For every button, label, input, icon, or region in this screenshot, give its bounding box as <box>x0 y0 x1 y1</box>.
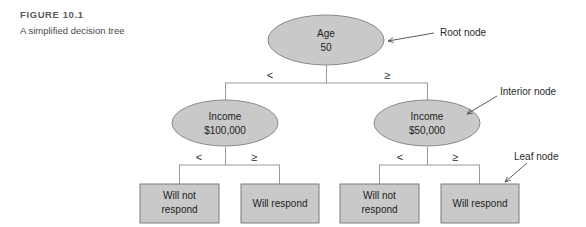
branch-label-root-right: ≥ <box>384 69 390 81</box>
annotation-leaf-node: Leaf node <box>505 151 559 182</box>
connector-right-subtree <box>379 147 480 184</box>
node-root-line2: 50 <box>320 42 332 53</box>
annotation-leaf-node-leader <box>505 163 527 182</box>
branch-label-left-node-right: ≥ <box>251 151 257 163</box>
node-root-line1: Age <box>317 28 335 39</box>
annotation-root-node: Root node <box>388 27 487 41</box>
leaf-node-1-line2: respond <box>161 204 197 215</box>
figure-container: FIGURE 10.1 A simplified decision tree <box>0 0 586 227</box>
connector-root-level <box>225 65 428 101</box>
branch-label-right-node-left: < <box>397 151 403 163</box>
node-root[interactable]: Age 50 <box>268 15 384 65</box>
leaf-node-2[interactable]: Will respond <box>241 184 319 223</box>
annotation-interior-node-label: Interior node <box>500 86 557 97</box>
leaf-node-1-line1: Will not <box>163 190 196 201</box>
leaf-node-3-line2: respond <box>361 204 397 215</box>
node-interior-right-line1: Income <box>411 111 444 122</box>
node-interior-left-line1: Income <box>209 111 242 122</box>
decision-tree-diagram: Age 50 < ≥ Income $100,000 Income $50,00… <box>0 0 586 227</box>
leaf-node-3[interactable]: Will not respond <box>340 184 419 223</box>
node-interior-right[interactable]: Income $50,000 <box>374 100 480 146</box>
annotation-leaf-node-label: Leaf node <box>514 151 559 162</box>
branch-label-right-node-right: ≥ <box>452 151 458 163</box>
node-interior-left-line2: $100,000 <box>204 125 246 136</box>
branch-label-root-left: < <box>267 69 273 81</box>
connector-left-subtree <box>179 147 280 184</box>
leaf-node-3-line1: Will not <box>363 190 396 201</box>
annotation-interior-node-leader <box>467 96 497 114</box>
node-interior-right-line2: $50,000 <box>409 125 446 136</box>
node-interior-left[interactable]: Income $100,000 <box>172 100 278 146</box>
leaf-node-4[interactable]: Will respond <box>441 184 519 223</box>
leaf-node-2-line1: Will respond <box>252 198 307 209</box>
leaf-node-4-line1: Will respond <box>452 198 507 209</box>
annotation-interior-node: Interior node <box>467 86 557 114</box>
annotation-root-node-label: Root node <box>440 27 487 38</box>
branch-label-left-node-left: < <box>196 151 202 163</box>
leaf-node-1[interactable]: Will not respond <box>140 184 219 223</box>
annotation-root-node-leader <box>388 33 434 41</box>
